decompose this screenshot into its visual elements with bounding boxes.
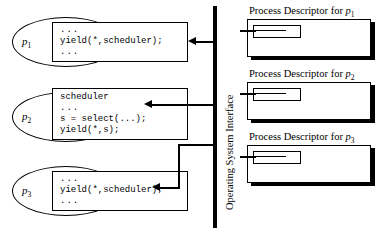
connector-p3-horizontal-top (178, 144, 216, 146)
code-line: yield(*,scheduler); (60, 36, 181, 47)
code-line: s = select(...); (60, 114, 181, 125)
process-label-p2-sub: 2 (28, 116, 32, 125)
code-line: ... (60, 174, 181, 185)
descriptor-inner-pd2 (253, 88, 301, 101)
process-label-p3: p3 (22, 185, 31, 199)
process-scheduling-diagram: p1 ... yield(*,scheduler); ... p2 schedu… (0, 0, 377, 234)
descriptor-title-prefix: Process Descriptor for (249, 131, 346, 142)
code-line: scheduler (60, 92, 181, 103)
descriptor-pd2-tick (240, 93, 256, 95)
code-line: ... (60, 47, 181, 58)
connector-p3-horizontal-bottom (160, 187, 180, 189)
code-line: yield(*,s); (60, 125, 181, 136)
connector-p2-horizontal (152, 104, 216, 106)
descriptor-pd1-tick (240, 30, 256, 32)
descriptor-inner-line-pd1 (256, 30, 286, 31)
os-interface-bar (213, 6, 217, 228)
arrow-to-p3-code (152, 183, 160, 191)
descriptor-title-sub: 1 (351, 10, 355, 19)
process-label-p3-sub: 3 (28, 190, 32, 199)
descriptor-title-prefix: Process Descriptor for (249, 68, 346, 79)
arrow-to-p1-code (188, 37, 196, 45)
descriptor-pd3-tick (240, 156, 256, 158)
descriptor-title-sub: 2 (351, 73, 355, 82)
connector-p3-vertical (178, 144, 180, 189)
descriptor-title-prefix: Process Descriptor for (249, 5, 346, 16)
code-box-p1: ... yield(*,scheduler); ... (52, 22, 188, 62)
process-label-p2: p2 (22, 111, 31, 125)
process-label-p1-sub: 1 (28, 41, 32, 50)
code-box-p3: ... yield(*,scheduler); ... (52, 171, 188, 211)
descriptor-inner-line-pd3 (256, 156, 286, 157)
code-line: ... (60, 196, 181, 207)
process-label-p1: p1 (22, 36, 31, 50)
code-box-p2: scheduler ... s = select(...); yield(*,s… (52, 88, 188, 140)
descriptor-title-pd2: Process Descriptor for p2 (249, 69, 355, 82)
descriptor-title-pd1: Process Descriptor for p1 (249, 6, 355, 19)
descriptor-inner-line-pd2 (256, 93, 286, 94)
descriptor-title-sub: 3 (351, 136, 355, 145)
descriptor-inner-pd3 (253, 151, 301, 164)
descriptor-inner-pd1 (253, 25, 301, 38)
os-interface-label: Operating System Interface (224, 95, 235, 210)
arrow-to-p2-code (144, 100, 152, 108)
descriptor-title-pd3: Process Descriptor for p3 (249, 132, 355, 145)
code-line: ... (60, 25, 181, 36)
